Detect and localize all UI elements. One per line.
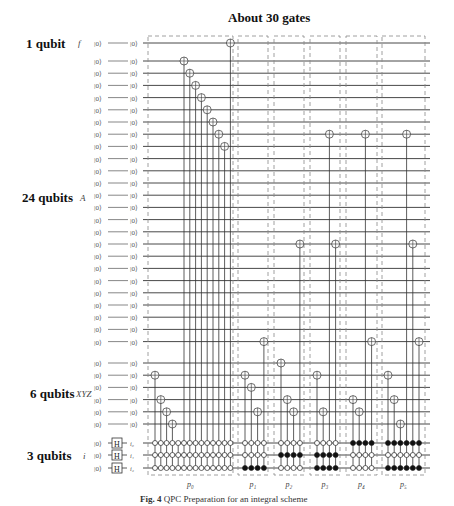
control-dot-open [222,441,227,446]
control-dot-open [211,466,216,471]
init-ket: |0⟩ [130,40,138,48]
init-ket: |0⟩ [130,326,138,334]
control-dot-open [205,453,210,458]
control-dot-open [243,453,248,458]
control-dot-open [261,441,266,446]
init-ket: |0⟩ [94,421,102,429]
control-dot-filled [398,441,403,446]
control-dot-filled [392,441,397,446]
init-ket: |0⟩ [94,302,102,310]
control-dot-open [216,453,221,458]
control-dot-open [182,441,187,446]
control-dot-open [392,453,397,458]
control-dot-open [351,466,356,471]
control-dot-open [228,441,233,446]
control-dot-filled [417,441,422,446]
control-dot-open [398,453,403,458]
control-dot-open [216,466,221,471]
control-dot-open [357,466,362,471]
control-dot-open [164,453,169,458]
control-dot-open [243,441,248,446]
init-ket: |0⟩ [130,70,138,78]
init-ket: |0⟩ [130,168,138,176]
caption-label: Fig. 4 [140,494,162,504]
init-ket: |0⟩ [94,278,102,286]
control-dot-open [216,441,221,446]
control-dot-open [410,453,415,458]
control-dot-open [211,453,216,458]
control-dot-filled [357,441,362,446]
control-dot-open [363,466,368,471]
block-label-5: p₅ [399,480,407,489]
init-ket: |0⟩ [130,290,138,298]
control-dot-filled [285,453,290,458]
init-ket: |0⟩ [130,265,138,273]
control-dot-filled [261,466,266,471]
init-ket: |0⟩ [94,440,102,448]
init-ket: |0⟩ [130,143,138,151]
control-dot-open [222,466,227,471]
control-dot-open [327,441,332,446]
block-label-4: p₄ [357,480,365,489]
init-ket: |0⟩ [94,168,102,176]
init-ket: |0⟩ [130,229,138,237]
control-dot-open [199,466,204,471]
control-dot-filled [386,441,391,446]
init-ket: |0⟩ [94,119,102,127]
control-dot-open [199,441,204,446]
init-ket: |0⟩ [130,180,138,188]
init-ket: |0⟩ [130,82,138,90]
block-label-2: p₂ [285,480,293,489]
init-ket: |0⟩ [94,384,102,392]
wire-label: i₁ [130,452,134,459]
control-dot-filled [417,466,422,471]
control-dot-open [315,441,320,446]
control-dot-open [228,466,233,471]
control-dot-open [205,466,210,471]
control-dot-open [351,453,356,458]
init-ket: |0⟩ [94,241,102,249]
control-dot-filled [363,441,368,446]
control-dot-open [249,453,254,458]
control-dot-open [193,466,198,471]
block-label-1: p₁ [249,480,257,489]
control-dot-open [158,441,163,446]
hadamard-gate-label: H [114,465,120,474]
init-ket: |0⟩ [94,409,102,417]
control-dot-open [187,441,192,446]
control-dot-filled [404,466,409,471]
control-dot-filled [351,441,356,446]
control-dot-open [279,466,284,471]
control-dot-open [279,441,284,446]
init-ket: |0⟩ [94,397,102,405]
hadamard-gate-label: H [114,440,120,449]
control-dot-open [193,441,198,446]
control-dot-open [228,453,233,458]
init-ket: |0⟩ [94,58,102,66]
control-dot-open [363,453,368,458]
wire-label: i₂ [130,465,135,472]
control-dot-open [249,441,254,446]
control-dot-filled [392,466,397,471]
init-ket: |0⟩ [94,156,102,164]
init-ket: |0⟩ [94,452,102,460]
control-dot-filled [333,466,338,471]
control-dot-open [285,466,290,471]
init-ket: |0⟩ [130,204,138,212]
init-ket: |0⟩ [130,339,138,347]
control-dot-filled [410,441,415,446]
init-ket: |0⟩ [94,204,102,212]
circuit-diagram: |0⟩|0⟩|0⟩|0⟩|0⟩|0⟩|0⟩|0⟩|0⟩|0⟩|0⟩|0⟩|0⟩|… [0,0,454,506]
control-dot-open [176,441,181,446]
control-dot-open [153,453,158,458]
control-dot-open [170,441,175,446]
control-dot-open [153,466,158,471]
init-ket: |0⟩ [94,107,102,115]
init-ket: |0⟩ [130,421,138,429]
control-dot-filled [386,466,391,471]
init-ket: |0⟩ [94,70,102,78]
caption-text: QPC Preparation for an integral scheme [164,494,308,504]
control-dot-open [297,441,302,446]
init-ket: |0⟩ [130,360,138,368]
control-dot-open [369,453,374,458]
